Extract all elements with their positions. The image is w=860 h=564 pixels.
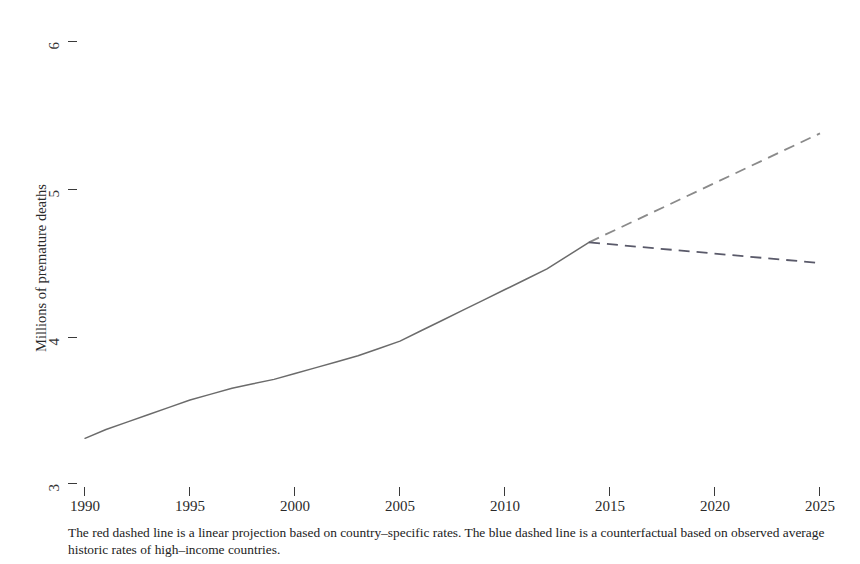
line-linear-projection — [589, 133, 820, 242]
chart-plot-area — [0, 0, 860, 564]
line-counterfactual — [589, 242, 820, 263]
line-observed-deaths — [85, 242, 589, 438]
chart-footnote: The red dashed line is a linear projecti… — [68, 524, 854, 558]
chart-figure: Millions of premature deaths 6 5 4 3 199… — [0, 0, 860, 564]
